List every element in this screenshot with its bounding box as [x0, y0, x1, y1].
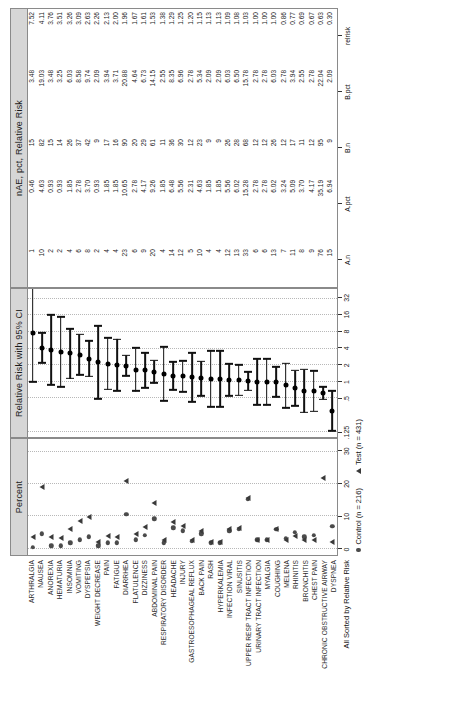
relative-risk-point[interactable]	[189, 375, 194, 380]
table-cell: 12	[224, 246, 233, 287]
test-point[interactable]	[311, 537, 316, 543]
relative-risk-point[interactable]	[320, 390, 325, 395]
test-point[interactable]	[283, 537, 288, 543]
relative-risk-point[interactable]	[58, 349, 63, 354]
relative-risk-point[interactable]	[311, 389, 316, 394]
table-cell: 14.15	[149, 67, 158, 136]
test-point[interactable]	[189, 537, 194, 543]
control-point[interactable]	[105, 540, 109, 544]
relative-risk-point[interactable]	[227, 377, 232, 382]
axis-tick-label: 32	[343, 294, 350, 302]
relative-risk-point[interactable]	[77, 352, 82, 357]
test-point[interactable]	[199, 528, 204, 534]
control-point[interactable]	[133, 537, 137, 541]
test-point[interactable]	[292, 533, 297, 539]
relative-risk-point[interactable]	[180, 374, 185, 379]
test-point[interactable]	[133, 531, 138, 537]
axis-tick-label: .125	[343, 426, 350, 440]
numeric-table: 10.46153.487.52104.638219.034.1120.93153…	[28, 9, 335, 287]
relative-risk-point[interactable]	[236, 377, 241, 382]
test-point[interactable]	[208, 539, 213, 545]
relative-risk-point[interactable]	[199, 376, 204, 381]
relative-risk-point[interactable]	[124, 363, 129, 368]
control-point[interactable]	[40, 531, 44, 535]
table-cell: 10	[196, 246, 205, 287]
table-cell: 6.02	[270, 177, 279, 246]
relative-risk-point[interactable]	[114, 363, 119, 368]
test-point[interactable]	[105, 533, 110, 539]
relative-risk-point[interactable]	[161, 372, 166, 377]
test-point[interactable]	[227, 526, 232, 532]
table-cell: 11	[298, 136, 307, 177]
table-cell: 4	[158, 246, 167, 287]
control-point[interactable]	[171, 525, 175, 529]
relative-risk-point[interactable]	[143, 368, 148, 373]
relative-risk-point[interactable]	[86, 356, 91, 361]
relative-risk-point[interactable]	[133, 367, 138, 372]
test-point[interactable]	[114, 534, 119, 540]
control-point[interactable]	[87, 534, 91, 538]
relative-risk-point[interactable]	[68, 351, 73, 356]
relative-risk-point[interactable]	[217, 376, 222, 381]
test-point[interactable]	[68, 526, 73, 532]
table-row: 104.638219.034.11	[37, 9, 46, 287]
relative-risk-point[interactable]	[255, 379, 260, 384]
test-point[interactable]	[58, 535, 63, 541]
relative-risk-point[interactable]	[264, 379, 269, 384]
test-point[interactable]	[320, 475, 325, 481]
relative-risk-point[interactable]	[246, 379, 251, 384]
test-point[interactable]	[40, 484, 45, 490]
test-point[interactable]	[264, 537, 269, 543]
relative-risk-point[interactable]	[40, 345, 45, 350]
relative-risk-point[interactable]	[96, 360, 101, 365]
table-cell: 1.03	[242, 9, 251, 67]
relative-risk-point[interactable]	[274, 379, 279, 384]
test-point[interactable]	[161, 537, 166, 543]
test-point[interactable]	[124, 478, 129, 484]
relative-risk-point[interactable]	[171, 373, 176, 378]
relative-risk-point[interactable]	[152, 369, 157, 374]
ci-cap	[291, 405, 299, 407]
test-point[interactable]	[171, 519, 176, 525]
control-point[interactable]	[143, 533, 147, 537]
test-point[interactable]	[86, 514, 91, 520]
control-point[interactable]	[30, 545, 34, 549]
relative-risk-point[interactable]	[105, 361, 110, 366]
relative-risk-point[interactable]	[30, 331, 35, 336]
table-cell: 14	[56, 136, 65, 177]
test-point[interactable]	[302, 537, 307, 543]
test-point[interactable]	[180, 523, 185, 529]
relative-risk-point[interactable]	[208, 376, 213, 381]
control-point[interactable]	[115, 540, 119, 544]
control-point[interactable]	[152, 517, 156, 521]
relative-risk-point[interactable]	[292, 386, 297, 391]
test-point[interactable]	[143, 524, 148, 530]
relative-risk-point[interactable]	[283, 383, 288, 388]
table-row: 104.63235.341.15	[196, 9, 205, 287]
test-point[interactable]	[236, 525, 241, 531]
test-point[interactable]	[30, 534, 35, 540]
control-point[interactable]	[68, 540, 72, 544]
ci-cap	[169, 361, 177, 363]
table-cell: 6.02	[233, 177, 242, 246]
control-point[interactable]	[77, 537, 81, 541]
test-point[interactable]	[49, 534, 54, 540]
test-point[interactable]	[274, 526, 279, 532]
test-point[interactable]	[246, 495, 251, 501]
relative-risk-point[interactable]	[49, 348, 54, 353]
test-point[interactable]	[96, 539, 101, 545]
percent-plot-area[interactable]	[27, 438, 338, 556]
control-point[interactable]	[330, 524, 334, 528]
test-point[interactable]	[77, 518, 82, 524]
table-header-tick	[338, 259, 342, 260]
axis-tick-label: 4	[343, 346, 350, 350]
test-point[interactable]	[217, 539, 222, 545]
test-point[interactable]	[255, 537, 260, 543]
forest-plot-area[interactable]	[27, 288, 338, 438]
test-point[interactable]	[330, 539, 335, 545]
table-cell: 0.63	[317, 9, 326, 67]
table-cell: 1.85	[205, 177, 214, 246]
test-point[interactable]	[152, 500, 157, 506]
relative-risk-point[interactable]	[330, 408, 335, 413]
relative-risk-point[interactable]	[302, 388, 307, 393]
